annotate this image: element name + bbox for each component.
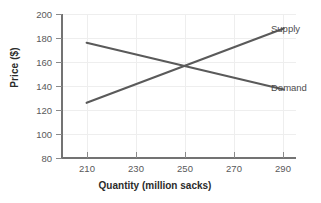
y-tick-label: 80 [12, 153, 52, 164]
x-tick-label: 270 [214, 163, 254, 174]
y-tick-label: 160 [12, 57, 52, 68]
series-lines [62, 14, 296, 158]
x-axis-title: Quantity (million sacks) [40, 180, 270, 191]
x-tick-label: 250 [165, 163, 205, 174]
y-tick-label: 140 [12, 81, 52, 92]
y-tick-label: 100 [12, 129, 52, 140]
y-tick-label: 200 [12, 9, 52, 20]
supply-demand-chart: Price ($) 200 180 160 140 120 100 80 210… [0, 0, 321, 203]
y-tick-label: 180 [12, 33, 52, 44]
x-tick-label: 290 [263, 163, 303, 174]
x-tick-label: 230 [116, 163, 156, 174]
series-label-demand: Demand [271, 82, 307, 93]
demand-line [87, 43, 284, 90]
x-tick-label: 210 [67, 163, 107, 174]
y-tick-label: 120 [12, 105, 52, 116]
series-label-supply: Supply [271, 23, 300, 34]
y-tick-mark [56, 158, 62, 159]
